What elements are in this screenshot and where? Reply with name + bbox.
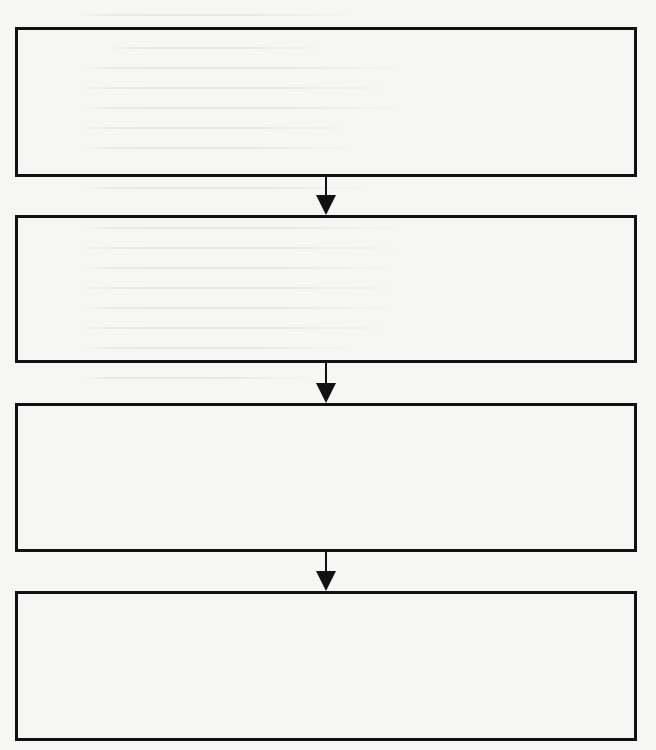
bleed-line: [80, 377, 316, 379]
arrowhead-icon: [316, 195, 336, 215]
arrow-step-1-to-step-2: [316, 176, 336, 215]
arrowhead-icon: [316, 571, 336, 591]
flowchart-box-step-2: [15, 215, 637, 363]
bleed-line: [80, 14, 356, 16]
arrowhead-icon: [316, 383, 336, 403]
arrow-step-3-to-step-4: [316, 551, 336, 591]
flowchart-box-step-1: [15, 27, 637, 177]
arrow-step-2-to-step-3: [316, 362, 336, 403]
flowchart-box-step-4: [15, 591, 637, 741]
flowchart-box-step-3: [15, 403, 637, 552]
